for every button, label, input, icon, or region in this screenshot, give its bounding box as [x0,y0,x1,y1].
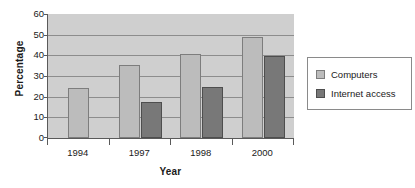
x-tick-label: 1997 [116,147,162,159]
y-tick-label: 60 [22,8,44,19]
y-tick-label: 0 [22,132,44,143]
y-tick-label: 20 [22,91,44,102]
x-tickmark [109,139,110,145]
y-tick-label: 50 [22,29,44,40]
legend-item-internet-access: Internet access [316,84,411,103]
x-tickmark [232,139,233,145]
y-tick-label: 30 [22,70,44,81]
x-tickmark [170,139,171,145]
x-tick-label: 1994 [55,147,101,159]
bars-layer [48,14,294,138]
x-tick-label: 2000 [239,147,285,159]
bar-1994-computers [68,88,89,138]
y-tick-label: 40 [22,49,44,60]
legend-swatch-icon [316,70,325,79]
bar-1997-internet-access [141,102,162,138]
legend-label: Internet access [331,88,395,99]
legend-label: Computers [331,69,377,80]
chart-legend: ComputersInternet access [307,57,412,110]
legend-item-computers: Computers [316,65,411,84]
x-axis-tick-labels: 1994199719982000 [47,147,294,161]
x-axis-title: Year [47,166,294,177]
y-tick-label: 10 [22,111,44,122]
legend-swatch-icon [316,89,325,98]
bar-chart-figure: Percentage 0102030405060 199419971998200… [0,0,415,188]
plot-area [47,14,294,139]
bar-2000-computers [242,37,263,138]
bar-2000-internet-access [264,56,285,138]
y-axis-tick-labels: 0102030405060 [22,8,44,144]
bar-1997-computers [119,65,140,138]
x-tick-label: 1998 [178,147,224,159]
x-axis-tickmarks [47,139,294,145]
x-tickmark [47,139,48,145]
x-tickmark [293,139,294,145]
bar-1998-internet-access [202,87,223,138]
bar-1998-computers [180,54,201,138]
